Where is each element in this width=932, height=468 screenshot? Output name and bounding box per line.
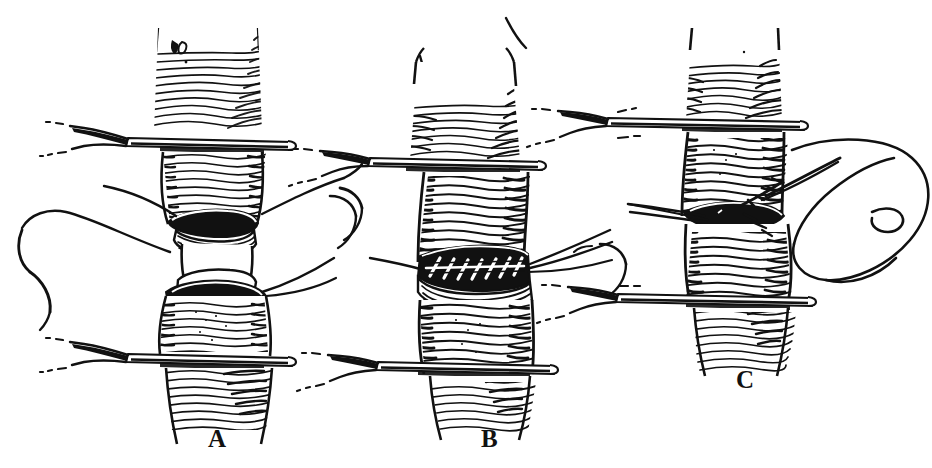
- vessel-upper-segment-c: [682, 28, 790, 121]
- anastomosis-illustration: [0, 0, 932, 468]
- vessel-upper-segment-a: [150, 28, 272, 133]
- panel-label-b: B: [481, 426, 498, 451]
- panel-label-c: C: [736, 367, 755, 392]
- vessel-lower-stump-a: [156, 296, 276, 356]
- vessel-upper-segment-b: [406, 48, 534, 161]
- running-suture-line-b: [418, 245, 530, 291]
- vessel-lower-segment-c: [678, 224, 796, 305]
- figure-container: A B C End-to-end vascular anastomosis te…: [0, 0, 932, 468]
- panel-label-a: A: [208, 426, 227, 451]
